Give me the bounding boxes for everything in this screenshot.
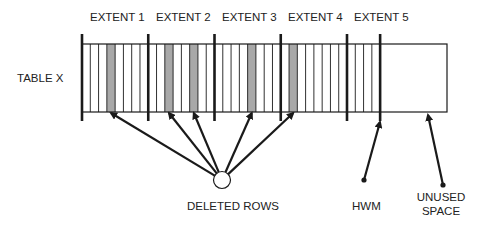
- extent-label-1: EXTENT 1: [90, 11, 145, 23]
- deleted-rows-label: DELETED ROWS: [187, 200, 279, 212]
- deleted-row-arrow: [169, 113, 217, 173]
- hwm-label: HWM: [352, 200, 381, 212]
- deleted-block: [248, 44, 256, 112]
- unused-space-arrow: [428, 115, 443, 185]
- unused-space-dot: [440, 182, 445, 187]
- deleted-block: [107, 44, 115, 112]
- extent-label-5: EXTENT 5: [354, 11, 409, 23]
- extent-diagram: TABLE X EXTENT 1 EXTENT 2 EXTENT 3 EXTEN…: [0, 0, 480, 228]
- extent-label-4: EXTENT 4: [288, 11, 343, 23]
- deleted-row-arrow: [111, 113, 215, 176]
- table-label: TABLE X: [17, 72, 64, 84]
- hwm-dot: [361, 177, 366, 182]
- deleted-rows-node: [214, 172, 231, 189]
- deleted-block: [190, 44, 198, 112]
- deleted-block: [165, 44, 173, 112]
- extent-label-2: EXTENT 2: [156, 11, 211, 23]
- deleted-row-arrow: [194, 113, 219, 172]
- extent-labels: EXTENT 1 EXTENT 2 EXTENT 3 EXTENT 4 EXTE…: [90, 11, 409, 23]
- extent-label-3: EXTENT 3: [222, 11, 277, 23]
- deleted-row-arrows: [111, 113, 293, 176]
- deleted-block: [289, 44, 297, 112]
- hwm-arrow: [364, 122, 380, 180]
- table-blocks: [90, 44, 372, 112]
- unused-space-label-line2: SPACE: [422, 205, 460, 217]
- unused-space-label-line1: UNUSED: [417, 191, 466, 203]
